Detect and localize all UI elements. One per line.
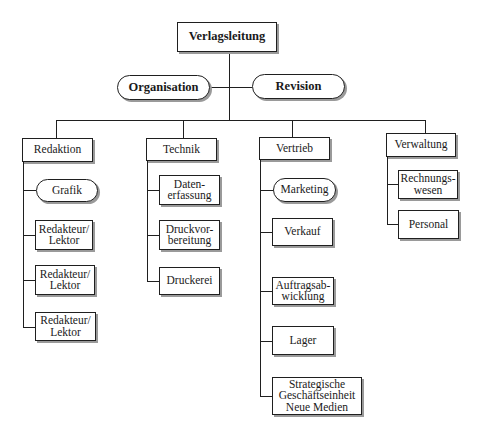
connector-branch (23, 235, 35, 236)
connector-bus (56, 120, 426, 121)
connector-redaktion-drop (56, 120, 57, 138)
connector-branch (147, 190, 159, 191)
node-verlagsleitung: Verlagsleitung (177, 22, 277, 52)
connector-branch (23, 280, 35, 281)
connector-technik-trunk (147, 161, 148, 282)
connector-branch (387, 184, 398, 185)
node-druckvorbereitung: Druckvor- bereitung (159, 220, 220, 250)
connector-branch (260, 291, 272, 292)
node-verkauf: Verkauf (272, 218, 333, 246)
node-auftragsabwicklung: Auftragsab- wicklung (272, 277, 334, 305)
connector-branch (260, 341, 272, 342)
connector-verwaltung-drop (425, 120, 426, 133)
node-revision: Revision (252, 74, 345, 99)
node-strategische-geschaeftseinheit: Strategische Geschäftseinheit Neue Medie… (272, 377, 362, 415)
connector-branch (23, 190, 36, 191)
node-organisation: Organisation (117, 75, 210, 100)
connector-staff (210, 87, 252, 88)
node-redakteur-lektor: Redakteur/ Lektor (35, 265, 95, 295)
connector-branch (147, 281, 159, 282)
connector-vertrieb-drop (292, 120, 293, 137)
node-lager: Lager (272, 326, 334, 355)
connector-branch (23, 327, 35, 328)
connector-vertrieb-trunk (260, 160, 261, 397)
node-personal: Personal (398, 210, 459, 239)
node-redakteur-lektor: Redakteur/ Lektor (35, 312, 96, 341)
node-technik: Technik (146, 138, 217, 161)
node-verwaltung: Verwaltung (386, 133, 456, 157)
connector-branch (387, 224, 398, 225)
node-rechnungswesen: Rechnungs- wesen (398, 170, 458, 199)
caption-fragment (150, 432, 470, 437)
node-datenerfassung: Daten- erfassung (159, 175, 220, 205)
connector-technik-drop (183, 120, 184, 138)
node-redakteur-lektor: Redakteur/ Lektor (35, 220, 93, 250)
node-grafik: Grafik (36, 179, 98, 202)
connector-redaktion-trunk (23, 162, 24, 328)
node-druckerei: Druckerei (159, 267, 220, 295)
connector-branch (260, 232, 272, 233)
node-vertrieb: Vertrieb (259, 137, 330, 160)
node-marketing: Marketing (273, 178, 336, 202)
org-chart: Verlagsleitung Organisation Revision Red… (0, 0, 478, 437)
connector-branch (260, 190, 273, 191)
connector-verwaltung-trunk (387, 157, 388, 225)
node-redaktion: Redaktion (22, 138, 93, 162)
connector-branch (147, 235, 159, 236)
connector-branch (260, 396, 272, 397)
